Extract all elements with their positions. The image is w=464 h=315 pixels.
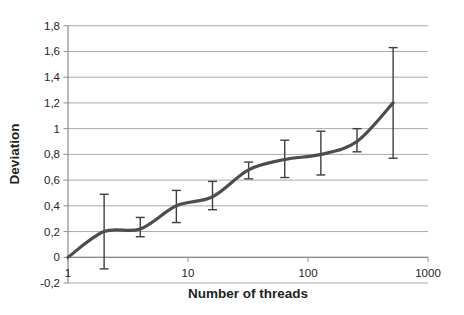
y-tick-label: 0,2: [44, 226, 60, 238]
plot-area: -0,200,20,40,60,811,21,41,61,81101001000: [0, 0, 464, 315]
y-tick-label: 0,8: [44, 148, 60, 160]
y-tick-label: 1,2: [44, 97, 60, 109]
y-tick-label: 1,4: [44, 71, 61, 83]
y-tick-label: 1,8: [44, 20, 60, 32]
y-tick-label: 0: [54, 251, 60, 263]
x-tick-label: 1: [65, 267, 71, 279]
x-tick-label: 10: [182, 267, 195, 279]
y-tick-label: 0,6: [44, 174, 60, 186]
y-tick-label: 1,6: [44, 45, 60, 57]
y-tick-label: 1: [54, 123, 60, 135]
y-tick-label: -0,2: [40, 277, 60, 289]
deviation-chart: -0,200,20,40,60,811,21,41,61,81101001000…: [0, 0, 464, 315]
y-tick-label: 0,4: [44, 200, 61, 212]
y-axis-title: Deviation: [7, 124, 22, 185]
x-tick-label: 100: [298, 267, 317, 279]
x-tick-label: 1000: [415, 267, 441, 279]
x-axis-title: Number of threads: [68, 286, 428, 301]
